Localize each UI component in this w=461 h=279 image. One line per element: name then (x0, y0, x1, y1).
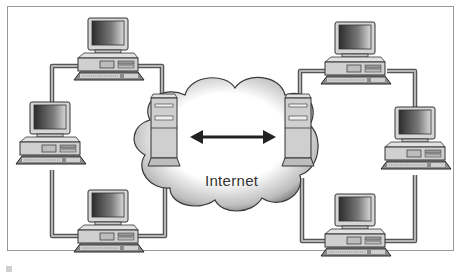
server-tower-left-icon (148, 94, 180, 166)
internet-label: Internet (205, 172, 258, 189)
pc-bottom-left-icon (74, 190, 144, 252)
network-diagram (0, 0, 461, 279)
pc-top-right-icon (321, 22, 391, 84)
pc-bottom-right-icon (321, 194, 391, 256)
pc-middle-right-icon (381, 107, 451, 169)
pc-top-left-icon (74, 18, 144, 80)
pc-middle-left-icon (16, 102, 86, 164)
server-tower-right-icon (282, 94, 314, 166)
caption-marker (6, 266, 12, 272)
